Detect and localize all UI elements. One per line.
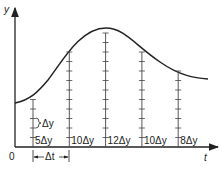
delta-y-bracket [36, 118, 41, 128]
strip-label: 10Δy [71, 135, 94, 146]
strips: 5Δy10Δy12Δy10Δy8Δy [30, 33, 197, 147]
delta-t-label: Δt [45, 151, 55, 162]
strip-label: 10Δy [144, 135, 167, 146]
strip-label: 5Δy [35, 135, 52, 146]
strip-label: 12Δy [108, 135, 131, 146]
origin-label: 0 [9, 151, 15, 162]
area-approximation-diagram: y t 0 5Δy10Δy12Δy10Δy8Δy Δy Δt [0, 0, 223, 170]
x-axis-label: t [204, 152, 208, 163]
curve [15, 28, 208, 103]
strip-label: 8Δy [180, 135, 197, 146]
delta-y-label: Δy [42, 118, 54, 129]
y-axis-label: y [3, 4, 10, 15]
